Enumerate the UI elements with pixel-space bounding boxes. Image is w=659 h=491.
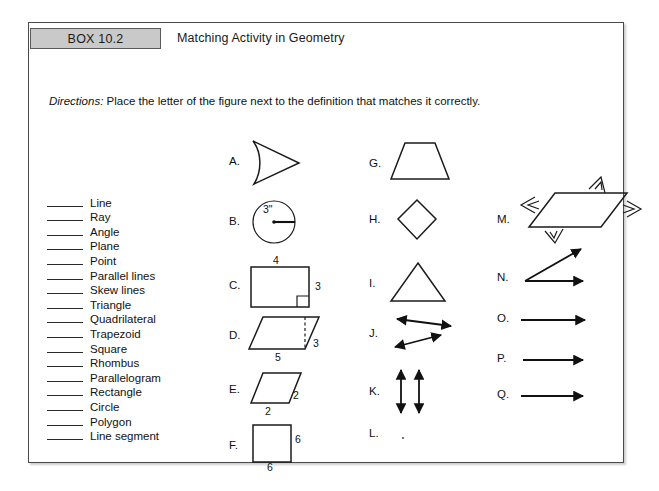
directions: Directions: Place the letter of the figu…	[49, 95, 480, 107]
answer-blank-line[interactable]	[47, 279, 83, 280]
figure-letter: E.	[229, 383, 240, 395]
list-item[interactable]: Circle	[47, 399, 207, 414]
answer-blank-line[interactable]	[47, 366, 83, 367]
definition-label: Rhombus	[90, 357, 139, 370]
dimension-label: 3	[315, 280, 321, 292]
definition-label: Triangle	[90, 299, 131, 312]
page-title: Matching Activity in Geometry	[177, 31, 345, 45]
circle-with-radius-icon	[249, 199, 301, 245]
figure-letter: J.	[369, 327, 378, 339]
definition-label: Square	[90, 343, 127, 356]
answer-blank-line[interactable]	[47, 293, 83, 294]
definition-label: Rectangle	[90, 386, 142, 399]
ray-icon	[519, 389, 599, 403]
figure-letter: K.	[369, 385, 380, 397]
answer-blank-line[interactable]	[47, 206, 83, 207]
list-item[interactable]: Square	[47, 341, 207, 356]
definition-label: Polygon	[90, 416, 132, 429]
list-item[interactable]: Rectangle	[47, 385, 207, 400]
angle-icon	[519, 245, 599, 295]
figure-letter: C.	[229, 279, 241, 291]
dimension-label: 3"	[263, 203, 273, 215]
answer-blank-line[interactable]	[47, 220, 83, 221]
definition-label: Point	[90, 255, 116, 268]
list-item[interactable]: Parallelogram	[47, 370, 207, 385]
figure-letter: O.	[497, 312, 509, 324]
definition-label: Parallel lines	[90, 270, 155, 283]
rhombus-icon	[247, 371, 311, 413]
answer-blank-line[interactable]	[47, 249, 83, 250]
figure-letter: M.	[497, 213, 510, 225]
definition-label: Quadrilateral	[90, 313, 156, 326]
figure-letter: H.	[369, 213, 381, 225]
figure-letter: F.	[229, 439, 238, 451]
square-icon	[251, 423, 299, 467]
list-item[interactable]: Angle	[47, 224, 207, 239]
figure-letter: G.	[369, 157, 381, 169]
definition-label: Plane	[90, 240, 119, 253]
answer-blank-line[interactable]	[47, 395, 83, 396]
triangle-icon	[389, 261, 449, 305]
answer-blank-line[interactable]	[47, 322, 83, 323]
answer-blank-line[interactable]	[47, 308, 83, 309]
dimension-label: 6	[295, 433, 301, 445]
list-item[interactable]: Triangle	[47, 297, 207, 312]
definition-label: Ray	[90, 211, 110, 224]
definition-label: Angle	[90, 226, 119, 239]
figure-letter: I.	[369, 277, 375, 289]
figure-letter: B.	[229, 215, 240, 227]
list-item[interactable]: Point	[47, 253, 207, 268]
answer-blank-line[interactable]	[47, 352, 83, 353]
definition-label: Circle	[90, 401, 119, 414]
diamond-icon	[393, 197, 441, 243]
skew-lines-icon	[387, 313, 467, 357]
figure-letter: Q.	[497, 388, 509, 400]
list-item[interactable]: Skew lines	[47, 283, 207, 298]
answer-blank-line[interactable]	[47, 337, 83, 338]
directions-lead: Directions:	[49, 95, 103, 107]
directions-text: Place the letter of the figure next to t…	[107, 95, 481, 107]
list-item[interactable]: Parallel lines	[47, 268, 207, 283]
ray-icon	[521, 353, 601, 367]
list-item[interactable]: Rhombus	[47, 356, 207, 371]
plane-parallelogram-icon	[515, 175, 645, 251]
worksheet-frame: BOX 10.2 Matching Activity in Geometry D…	[28, 22, 624, 463]
dimension-label: 5	[275, 351, 281, 363]
definition-label: Parallelogram	[90, 372, 161, 385]
rectangle-with-right-angle-icon	[249, 265, 315, 313]
ray-icon	[519, 313, 599, 327]
box-number-tag: BOX 10.2	[30, 28, 161, 49]
answer-blank-line[interactable]	[47, 410, 83, 411]
box-number-label: BOX 10.2	[68, 32, 124, 46]
figure-letter: N.	[497, 271, 509, 283]
dimension-label: 3	[313, 337, 319, 349]
figure-letter: P.	[497, 352, 506, 364]
answer-blank-line[interactable]	[47, 425, 83, 426]
dimension-label: 6	[267, 461, 273, 473]
list-item[interactable]: Trapezoid	[47, 326, 207, 341]
trapezoid-icon	[389, 141, 455, 185]
list-item[interactable]: Quadrilateral	[47, 312, 207, 327]
definition-label: Skew lines	[90, 284, 145, 297]
answer-blank-line[interactable]	[47, 235, 83, 236]
definition-label: Line	[90, 197, 112, 210]
list-item[interactable]: Ray	[47, 210, 207, 225]
list-item[interactable]: Plane	[47, 239, 207, 254]
answer-blank-line[interactable]	[47, 381, 83, 382]
dimension-label: 2	[293, 389, 299, 401]
figure-letter: A.	[229, 155, 240, 167]
definition-list: Line Ray Angle Plane Point Parallel line…	[47, 195, 207, 443]
list-item[interactable]: Line	[47, 195, 207, 210]
answer-blank-line[interactable]	[47, 264, 83, 265]
list-item[interactable]: Polygon	[47, 414, 207, 429]
definition-label: Line segment	[90, 430, 159, 443]
parallel-lines-icon	[393, 365, 437, 419]
figure-letter: L.	[369, 427, 379, 439]
dimension-label: 4	[273, 254, 279, 266]
right-pointing-triangle-icon	[249, 139, 305, 187]
figure-letter: D.	[229, 329, 241, 341]
list-item[interactable]: Line segment	[47, 429, 207, 444]
dimension-label: 2	[265, 405, 271, 417]
definition-label: Trapezoid	[90, 328, 141, 341]
answer-blank-line[interactable]	[47, 439, 83, 440]
